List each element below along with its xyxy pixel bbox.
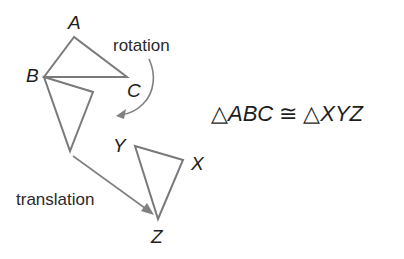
vertex-label-z: Z	[150, 226, 164, 247]
triangle-name-right: XYZ	[319, 101, 364, 126]
triangle-xyz	[135, 146, 183, 219]
congruence-diagram: A B C Y X Z rotation translation △ABC≅△X…	[0, 0, 404, 259]
triangle-name-left: ABC	[226, 101, 273, 126]
translation-label: translation	[16, 190, 94, 209]
congruence-statement: △ABC≅△XYZ	[211, 101, 365, 126]
triangle-rotated	[44, 77, 93, 151]
vertex-label-b: B	[26, 65, 39, 86]
vertex-label-x: X	[190, 153, 205, 174]
vertex-label-c: C	[127, 80, 141, 101]
triangle-symbol-right: △	[303, 101, 320, 126]
rotation-label: rotation	[113, 36, 170, 55]
triangle-symbol-left: △	[211, 101, 228, 126]
vertex-label-a: A	[67, 12, 81, 33]
congruent-symbol: ≅	[279, 101, 297, 126]
vertex-label-y: Y	[113, 135, 127, 156]
